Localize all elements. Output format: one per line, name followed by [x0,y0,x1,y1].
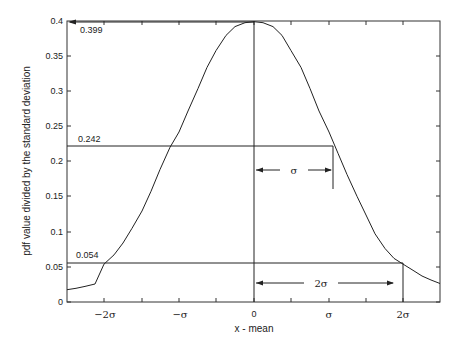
peak-value-label: 0.399 [80,25,103,35]
y-tick-label: 0.05 [45,262,63,272]
y-tick-label: 0.1 [50,227,63,237]
arrow-head-icon [68,20,76,25]
x-tick-labels: −2σ −σ 0 σ 2σ [94,309,410,320]
y-tick-label: 0.15 [45,191,63,201]
sigma-span-label: σ [291,165,298,176]
x-axis-label: x - mean [235,323,274,334]
two-sigma-span-label: 2σ [314,278,327,289]
y-tick-label: 0.3 [50,86,63,96]
two-sigma-value-label: 0.054 [76,250,99,260]
x-tick-label: σ [326,309,333,320]
y-tick-label: 0.25 [45,121,63,131]
y-tick-label: 0.2 [50,156,63,166]
x-tick-label: 0 [251,309,256,319]
one-sigma-value-label: 0.242 [78,134,101,144]
arrow-head-icon [256,168,263,173]
x-tick-label: −σ [172,309,187,320]
arrow-head-icon [387,281,394,286]
x-tick-label: 2σ [396,309,409,320]
y-tick-label: 0.35 [45,51,63,61]
y-tick-label: 0 [58,297,63,307]
arrow-head-icon [256,281,263,286]
x-tick-label: −2σ [94,309,116,320]
normal-distribution-chart: 0 0.05 0.1 0.15 0.2 0.25 0.3 0.35 0.4 −2… [0,0,461,343]
y-tick-labels: 0 0.05 0.1 0.15 0.2 0.25 0.3 0.35 0.4 [45,16,63,307]
y-tick-label: 0.4 [50,16,63,26]
y-axis-label: pdf value divided by the standard deviat… [21,66,32,256]
arrow-head-icon [325,168,332,173]
